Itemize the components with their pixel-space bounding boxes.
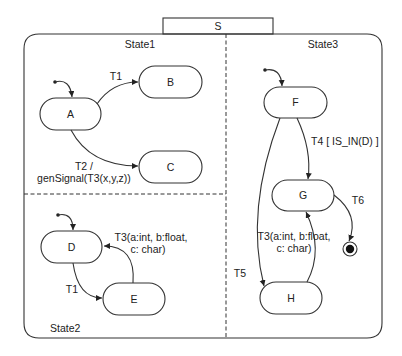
initial-pseudostate-f: [263, 68, 282, 86]
state-b[interactable]: B: [139, 66, 202, 98]
svg-text:T3(a:int, b:float,: T3(a:int, b:float,: [115, 231, 188, 243]
svg-text:c: char): c: char): [130, 243, 165, 255]
root-state-label: S: [214, 20, 221, 32]
transition-d-to-e[interactable]: T1: [66, 263, 102, 298]
svg-text:G: G: [299, 189, 307, 201]
state-f[interactable]: F: [264, 87, 327, 118]
state-c[interactable]: C: [139, 151, 202, 183]
region-label-state3: State3: [308, 38, 339, 50]
region-label-state2: State2: [50, 322, 81, 334]
transition-g-to-final[interactable]: T6: [334, 194, 364, 241]
transition-h-to-g[interactable]: T3(a:int, b:float, c: char): [258, 212, 331, 282]
state-e[interactable]: E: [103, 283, 165, 315]
transition-e-to-d[interactable]: T3(a:int, b:float, c: char): [104, 231, 187, 283]
statechart-diagram: S State1 State3 State2 A B C T1 T2 / gen…: [0, 0, 402, 356]
svg-text:H: H: [287, 292, 295, 304]
svg-text:genSignal(T3(x,y,z)): genSignal(T3(x,y,z)): [37, 172, 131, 184]
state-h[interactable]: H: [260, 282, 322, 314]
transition-f-to-g[interactable]: T4 [ IS_IN(D) ]: [297, 118, 379, 179]
initial-pseudostate-d: [56, 213, 73, 230]
transition-a-to-b[interactable]: T1: [97, 70, 138, 104]
transition-a-to-c[interactable]: T2 / genSignal(T3(x,y,z)): [37, 130, 138, 184]
state-d[interactable]: D: [41, 231, 102, 263]
svg-text:T5: T5: [234, 267, 246, 279]
svg-text:T3(a:int, b:float,: T3(a:int, b:float,: [258, 230, 331, 242]
svg-text:T1: T1: [110, 70, 122, 82]
state-g[interactable]: G: [272, 180, 334, 211]
svg-text:c: char): c: char): [276, 242, 311, 254]
root-state-tab[interactable]: S: [163, 18, 273, 34]
state-a[interactable]: A: [40, 98, 101, 130]
svg-text:T1: T1: [66, 283, 78, 295]
svg-text:A: A: [67, 108, 74, 120]
svg-text:F: F: [292, 96, 298, 108]
svg-text:T2 /: T2 /: [75, 160, 93, 172]
initial-pseudostate-a: [53, 80, 72, 97]
svg-text:B: B: [167, 76, 174, 88]
final-state[interactable]: [343, 242, 357, 256]
svg-text:C: C: [167, 161, 175, 173]
region-label-state1: State1: [125, 38, 156, 50]
svg-text:E: E: [130, 293, 137, 305]
svg-text:T6: T6: [352, 194, 364, 206]
svg-text:D: D: [68, 241, 76, 253]
svg-text:T4 [ IS_IN(D) ]: T4 [ IS_IN(D) ]: [311, 135, 379, 147]
